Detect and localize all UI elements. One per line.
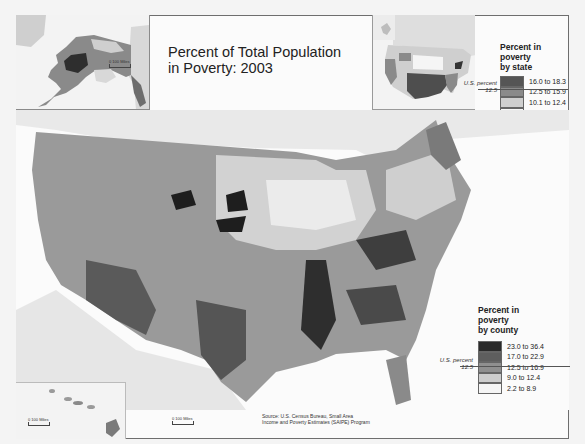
legend-swatch <box>478 341 502 352</box>
legend-swatch <box>478 383 502 394</box>
source-note: Source: U.S. Census Bureau, Small Area I… <box>262 413 370 425</box>
legend-label: 16.0 to 18.3 <box>529 78 566 85</box>
county-legend-row: 17.0 to 22.9 <box>478 352 544 363</box>
legend-label: 17.0 to 22.9 <box>507 353 544 360</box>
legend-label: 2.2 to 8.9 <box>507 385 536 392</box>
scale-bar-graphic <box>172 421 194 425</box>
us-percent-value: 12.5 <box>452 87 497 94</box>
hawaii-island <box>87 405 95 409</box>
state-midwest-low-poverty <box>413 55 443 70</box>
legend-swatch <box>478 352 502 363</box>
legend-swatch <box>478 373 502 384</box>
state-legend: Percent in poverty by state 16.0 to 18.3… <box>500 42 566 118</box>
title-line-1: Percent of Total Population <box>168 44 341 60</box>
county-legend-row: 9.0 to 12.4 <box>478 373 544 384</box>
state-us-percent-label: U.S. percent 12.5 <box>452 80 497 94</box>
scale-zero-label: 0 <box>172 416 174 421</box>
alaska-inset: 0 100 Miles <box>16 15 150 110</box>
us-percent-value: 12.5 <box>428 364 473 371</box>
county-legend-row: 12.5 to 16.9 <box>478 362 544 373</box>
us-percent-text: U.S. percent <box>428 357 473 364</box>
county-legend-row: 2.2 to 8.9 <box>478 383 544 394</box>
county-legend: Percent in poverty by county 23.0 to 36.… <box>478 305 544 394</box>
plains-lowest-poverty-region <box>266 180 356 230</box>
legend-swatch <box>478 362 502 373</box>
county-us-percent-line <box>460 366 570 367</box>
state-legend-row: 10.1 to 12.4 <box>500 97 566 108</box>
hawaii-map <box>16 383 126 440</box>
state-montana <box>399 53 411 61</box>
hawaii-island <box>64 397 72 401</box>
county-us-percent-label: U.S. percent 12.5 <box>428 357 473 371</box>
legend-label: 12.5 to 16.9 <box>507 364 544 371</box>
legend-label: 10.1 to 12.4 <box>529 99 566 106</box>
alaska-scale-bar: 0 100 Miles <box>109 59 131 68</box>
scale-zero-label: 0 <box>28 417 30 422</box>
legend-swatch <box>500 97 524 108</box>
hawaii-big-island <box>106 419 120 437</box>
scale-distance-label: 100 Miles <box>31 417 48 422</box>
state-map <box>373 15 475 110</box>
scale-bar-graphic <box>28 422 50 426</box>
legend-title-line: by county <box>478 325 544 335</box>
us-percent-text: U.S. percent <box>452 80 497 87</box>
legend-label: 9.0 to 12.4 <box>507 374 540 381</box>
conus-scale-bar: 0 100 Miles <box>172 416 194 425</box>
state-legend-title: Percent in poverty by state <box>500 42 566 72</box>
legend-title-line: poverty <box>478 315 544 325</box>
state-legend-row: 16.0 to 18.3 <box>500 76 566 87</box>
hawaii-island <box>49 389 55 393</box>
hawaii-scale-bar: 0 100 Miles <box>28 417 50 426</box>
hawaii-island <box>73 401 83 405</box>
scale-distance-label: 100 Miles <box>112 59 129 64</box>
legend-title-line: poverty <box>500 52 566 62</box>
legend-title-line: Percent in <box>500 42 566 52</box>
map-title: Percent of Total Population in Poverty: … <box>168 44 341 76</box>
legend-title-line: Percent in <box>478 305 544 315</box>
title-line-2: in Poverty: 2003 <box>168 60 341 76</box>
hawaii-inset: 0 100 Miles <box>16 382 126 439</box>
scale-bar-graphic <box>109 64 131 68</box>
county-legend-row: 23.0 to 36.4 <box>478 341 544 352</box>
county-legend-title: Percent in poverty by county <box>478 305 544 335</box>
legend-title-line: by state <box>500 62 566 72</box>
source-line-2: Income and Poverty Estimates (SAIPE) Pro… <box>262 419 370 425</box>
scale-zero-label: 0 <box>109 59 111 64</box>
scale-distance-label: 100 Miles <box>175 416 192 421</box>
legend-swatch <box>500 76 524 87</box>
state-poverty-inset <box>372 15 475 110</box>
legend-label: 23.0 to 36.4 <box>507 343 544 350</box>
